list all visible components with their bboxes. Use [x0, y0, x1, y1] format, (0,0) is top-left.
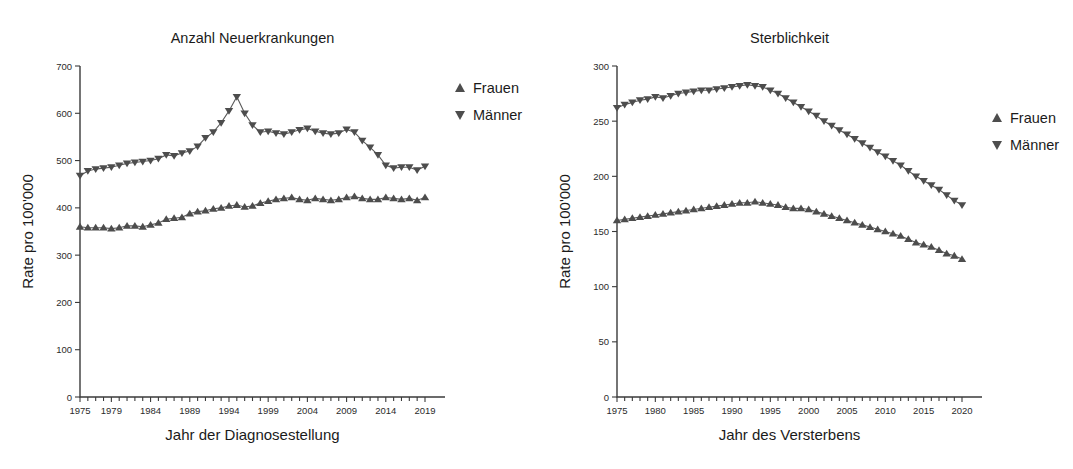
data-point-marker: [766, 87, 774, 94]
data-point-marker: [288, 194, 296, 201]
data-point-marker: [178, 213, 186, 220]
data-point-marker: [904, 168, 912, 175]
x-tick-label: 2005: [836, 405, 857, 416]
y-tick-label: 200: [593, 171, 609, 182]
y-tick-label: 500: [56, 155, 72, 166]
axes-incidence: 0100200300400500600700197519791984198919…: [56, 61, 445, 417]
data-point-marker: [866, 145, 874, 152]
legend-marker-maenner: [455, 111, 465, 120]
data-point-marker: [789, 100, 797, 107]
x-tick-label: 1975: [69, 405, 90, 416]
data-point-marker: [233, 201, 241, 208]
data-point-marker: [958, 202, 966, 209]
y-tick-label: 150: [593, 226, 609, 237]
legend-marker-maenner: [992, 141, 1002, 150]
x-tick-label: 1985: [683, 405, 704, 416]
data-point-marker: [613, 105, 621, 112]
y-tick-label: 100: [593, 281, 609, 292]
data-point-marker: [912, 239, 920, 246]
data-point-marker: [256, 129, 264, 136]
data-point-marker: [919, 178, 927, 185]
y-tick-label: 100: [56, 344, 72, 355]
x-tick-label: 1979: [101, 405, 122, 416]
y-tick-label: 250: [593, 116, 609, 127]
series-line: [617, 85, 962, 205]
data-point-marker: [389, 165, 397, 172]
x-tick-label: 1994: [218, 405, 239, 416]
y-axis-title-mortality: Rate pro 100'000: [556, 174, 573, 289]
data-point-marker: [950, 198, 958, 205]
chart-title-incidence: Anzahl Neuerkrankungen: [171, 30, 335, 46]
x-tick-label: 1980: [645, 405, 666, 416]
legend-label-frauen: Frauen: [473, 80, 519, 96]
data-point-marker: [781, 95, 789, 102]
data-point-marker: [858, 140, 866, 147]
y-tick-label: 200: [56, 297, 72, 308]
y-tick-label: 50: [598, 336, 609, 347]
data-point-marker: [76, 173, 84, 180]
data-point-marker: [804, 108, 812, 115]
x-tick-label: 1995: [760, 405, 781, 416]
series-line: [80, 97, 425, 176]
data-point-marker: [927, 182, 935, 189]
data-point-marker: [958, 255, 966, 262]
data-point-marker: [193, 144, 201, 151]
chart-panel-incidence: Anzahl NeuerkrankungenRate pro 100'000Ja…: [0, 0, 536, 469]
axis-lines: [80, 66, 445, 397]
data-point-marker: [758, 84, 766, 91]
x-tick-label: 2015: [913, 405, 934, 416]
data-point-marker: [942, 192, 950, 199]
data-point-marker: [827, 123, 835, 130]
data-point-marker: [240, 110, 248, 117]
legend-incidence: FrauenMänner: [455, 80, 522, 123]
data-point-marker: [620, 102, 628, 109]
data-point-marker: [154, 219, 162, 226]
data-point-marker: [881, 154, 889, 161]
y-tick-label: 0: [67, 392, 72, 403]
x-tick-label: 2009: [336, 405, 357, 416]
data-point-marker: [311, 195, 319, 202]
data-point-marker: [843, 132, 851, 139]
legend-marker-frauen: [992, 113, 1002, 122]
data-point-marker: [327, 131, 335, 138]
data-point-marker: [209, 129, 217, 136]
data-point-marker: [751, 198, 759, 205]
data-point-marker: [912, 173, 920, 180]
data-point-marker: [76, 223, 84, 230]
data-point-marker: [942, 250, 950, 257]
data-point-marker: [889, 158, 897, 165]
data-point-marker: [382, 194, 390, 201]
data-point-marker: [280, 131, 288, 138]
data-point-marker: [233, 94, 241, 101]
y-tick-label: 700: [56, 61, 72, 72]
series-line: [617, 202, 962, 259]
data-point-marker: [774, 91, 782, 98]
x-tick-label: 1984: [140, 405, 161, 416]
legend-mortality: FrauenMänner: [992, 110, 1059, 153]
chart-title-mortality: Sterblichkeit: [750, 30, 829, 46]
data-point-marker: [659, 95, 667, 102]
data-point-marker: [873, 149, 881, 156]
y-tick-label: 300: [56, 250, 72, 261]
data-point-marker: [812, 113, 820, 120]
series-incidence-männer: [76, 94, 429, 180]
data-point-marker: [374, 152, 382, 159]
data-point-marker: [225, 108, 233, 115]
x-tick-label: 2020: [951, 405, 972, 416]
y-tick-label: 0: [604, 392, 609, 403]
series-mortality-männer: [613, 82, 966, 209]
series-incidence-frauen: [76, 193, 429, 232]
legend-label-frauen: Frauen: [1010, 110, 1056, 126]
x-tick-label: 2000: [798, 405, 819, 416]
x-tick-label: 1999: [258, 405, 279, 416]
axis-lines: [617, 66, 982, 397]
x-tick-label: 1990: [721, 405, 742, 416]
figure-root: Anzahl NeuerkrankungenRate pro 100'000Ja…: [0, 0, 1073, 469]
chart-panel-mortality: SterblichkeitRate pro 100'000Jahr des Ve…: [537, 0, 1073, 469]
data-point-marker: [835, 127, 843, 134]
x-tick-label: 1975: [606, 405, 627, 416]
y-tick-label: 400: [56, 202, 72, 213]
x-tick-label: 2010: [875, 405, 896, 416]
data-point-marker: [850, 136, 858, 143]
data-point-marker: [405, 195, 413, 202]
